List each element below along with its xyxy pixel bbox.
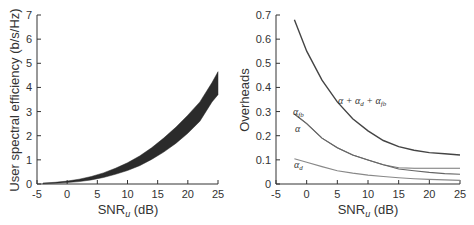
- x-tick-label: 15: [393, 188, 405, 200]
- y-tick-label: 6: [26, 33, 32, 45]
- y-tick-label: 4: [26, 81, 32, 93]
- figure: 01234567 -50510152025 User spectral effi…: [0, 0, 474, 225]
- left-y-ticks: 01234567: [26, 9, 41, 190]
- y-tick-label: 0.3: [256, 106, 271, 118]
- x-tick-label: 20: [423, 188, 435, 200]
- y-tick-label: 1: [26, 154, 32, 166]
- right-y-label: Overheads: [237, 68, 252, 132]
- y-tick-label: 5: [26, 57, 32, 69]
- y-tick-label: 0.4: [256, 81, 271, 93]
- annotation-alpha: α: [295, 123, 301, 134]
- spectral-efficiency-band: [43, 72, 218, 184]
- y-tick-label: 0: [265, 178, 271, 190]
- y-tick-label: 3: [26, 106, 32, 118]
- x-tick-label: 10: [121, 188, 133, 200]
- left-y-label: User spectral efficiency (b/s/Hz): [7, 8, 22, 191]
- x-tick-label: 5: [334, 188, 340, 200]
- x-tick-label: 10: [362, 188, 374, 200]
- x-tick-label: -5: [32, 188, 42, 200]
- annotation-alpha-fb: αfb: [293, 106, 304, 119]
- line-total-overhead: [294, 20, 460, 155]
- x-tick-label: 0: [64, 188, 70, 200]
- y-tick-label: 0.1: [256, 154, 271, 166]
- line-alpha-d: [294, 159, 460, 181]
- x-tick-label: -5: [271, 188, 281, 200]
- y-tick-label: 0.7: [256, 9, 271, 21]
- y-tick-label: 7: [26, 9, 32, 21]
- x-tick-label: 25: [212, 188, 224, 200]
- x-tick-label: 15: [152, 188, 164, 200]
- right-x-ticks: -50510152025: [271, 180, 466, 200]
- x-tick-label: 25: [454, 188, 466, 200]
- y-tick-label: 0.5: [256, 57, 271, 69]
- x-tick-label: 5: [94, 188, 100, 200]
- line-alpha-fb: [294, 114, 460, 168]
- x-tick-label: 0: [304, 188, 310, 200]
- y-tick-label: 0.2: [256, 130, 271, 142]
- y-tick-label: 2: [26, 130, 32, 142]
- right-x-label: SNRu (dB): [338, 202, 399, 219]
- left-chart: 01234567 -50510152025 User spectral effi…: [7, 8, 224, 219]
- annotation-total-overhead: α + αd + αfb: [338, 95, 387, 108]
- y-tick-label: 0.6: [256, 33, 271, 45]
- left-x-label: SNRu (dB): [98, 202, 159, 219]
- x-tick-label: 20: [182, 188, 194, 200]
- right-chart: 00.10.20.30.40.50.60.7 -50510152025 Over…: [237, 9, 466, 219]
- y-tick-label: 0: [26, 178, 32, 190]
